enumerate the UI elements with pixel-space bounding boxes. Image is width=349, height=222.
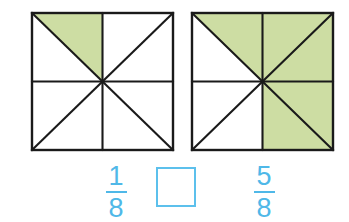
octant-square-right <box>192 13 333 150</box>
fraction-figure-right <box>192 13 333 150</box>
fraction-label-left: 1 8 <box>93 162 139 222</box>
answer-row: 1 8 5 8 <box>0 156 349 222</box>
fraction-comparison-worksheet: 1 8 5 8 <box>0 0 349 222</box>
right-fraction-numerator: 5 <box>254 162 275 190</box>
grid-lines <box>32 13 173 150</box>
right-fraction-denominator: 8 <box>254 194 275 222</box>
fraction-label-right: 5 8 <box>241 162 287 222</box>
left-fraction-denominator: 8 <box>106 194 127 222</box>
fraction-stack-right: 5 8 <box>254 162 275 222</box>
left-fraction-numerator: 1 <box>106 162 127 190</box>
octant-square-left <box>32 13 173 150</box>
fraction-figure-left <box>32 13 173 150</box>
comparison-answer-box[interactable] <box>156 167 196 207</box>
figures-row <box>0 0 349 158</box>
grid-lines <box>192 13 333 150</box>
fraction-stack-left: 1 8 <box>106 162 127 222</box>
